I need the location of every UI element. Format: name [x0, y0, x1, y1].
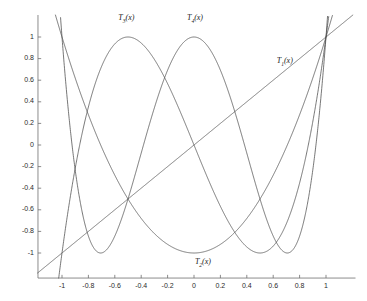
y-tick-label: -0.6: [4, 205, 34, 212]
curves: [38, 15, 353, 278]
curve-t4: [61, 16, 328, 253]
y-tick-label: 0.4: [4, 97, 34, 104]
y-tick-label: 0.6: [4, 76, 34, 83]
curve-t1: [38, 15, 353, 273]
curve-t2: [55, 15, 332, 253]
curve-label-t1: T1(x): [277, 56, 293, 67]
y-tick-label: -0.2: [4, 162, 34, 169]
y-tick-label: 1: [4, 33, 34, 40]
y-tick-label: -1: [4, 249, 34, 256]
tick-marks: [38, 37, 326, 278]
y-tick-label: 0: [4, 141, 34, 148]
curve-label-argument: (x): [202, 257, 211, 266]
chebyshev-polynomial-chart: -1-0.8-0.6-0.4-0.200.20.40.60.81-1-0.8-0…: [0, 0, 367, 301]
y-tick-label: 0.2: [4, 119, 34, 126]
y-tick-label: -0.4: [4, 184, 34, 191]
y-tick-label: -0.8: [4, 227, 34, 234]
x-tick-label: 1: [306, 282, 346, 289]
curve-label-argument: (x): [194, 13, 203, 22]
curve-label-t3: T3(x): [118, 13, 134, 24]
curve-label-argument: (x): [284, 56, 293, 65]
curve-label-t2: T2(x): [195, 257, 211, 268]
curve-label-argument: (x): [126, 13, 135, 22]
y-tick-label: 0.8: [4, 54, 34, 61]
plot-canvas: [0, 0, 367, 301]
curve-label-t4: T4(x): [187, 13, 203, 24]
